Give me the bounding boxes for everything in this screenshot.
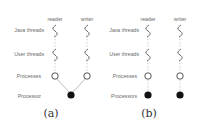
process-node-reader <box>145 73 151 79</box>
row-label-user-threads: User threads <box>14 51 44 57</box>
column-header-writer: writer <box>81 16 94 22</box>
process-processor-link <box>57 79 69 92</box>
diagram-canvas: reader writer Java threads User threads … <box>0 0 197 125</box>
processor-node-writer <box>176 91 183 98</box>
user-thread-icon <box>178 49 182 61</box>
processor-node-shared <box>67 91 74 98</box>
panel-caption-a: (a) <box>43 107 58 120</box>
row-label-java-threads: Java threads <box>14 27 44 33</box>
process-processor-link <box>73 79 85 92</box>
row-label-java-threads: Java threads <box>109 27 139 33</box>
process-node-writer <box>84 73 90 79</box>
panel-b: reader writer Java threads User threads … <box>109 16 186 120</box>
processor-node-reader <box>144 91 151 98</box>
java-thread-icon <box>178 25 182 37</box>
panel-a: reader writer Java threads User threads … <box>14 16 93 120</box>
user-thread-icon <box>85 49 89 61</box>
column-header-writer: writer <box>174 16 187 22</box>
row-label-processes: Processes <box>113 73 138 79</box>
column-header-reader: reader <box>48 16 63 22</box>
row-label-user-threads: User threads <box>109 51 139 57</box>
column-header-reader: reader <box>141 16 156 22</box>
java-thread-icon <box>85 25 89 37</box>
java-thread-icon <box>146 25 150 37</box>
row-label-processes: Processes <box>17 73 42 79</box>
user-thread-icon <box>146 49 150 61</box>
row-label-processors: Processors <box>111 93 137 99</box>
process-node-reader <box>52 73 58 79</box>
panel-caption-b: (b) <box>141 107 157 120</box>
process-node-writer <box>177 73 183 79</box>
user-thread-icon <box>53 49 57 61</box>
row-label-processor: Processor <box>18 93 42 99</box>
java-thread-icon <box>53 25 57 37</box>
